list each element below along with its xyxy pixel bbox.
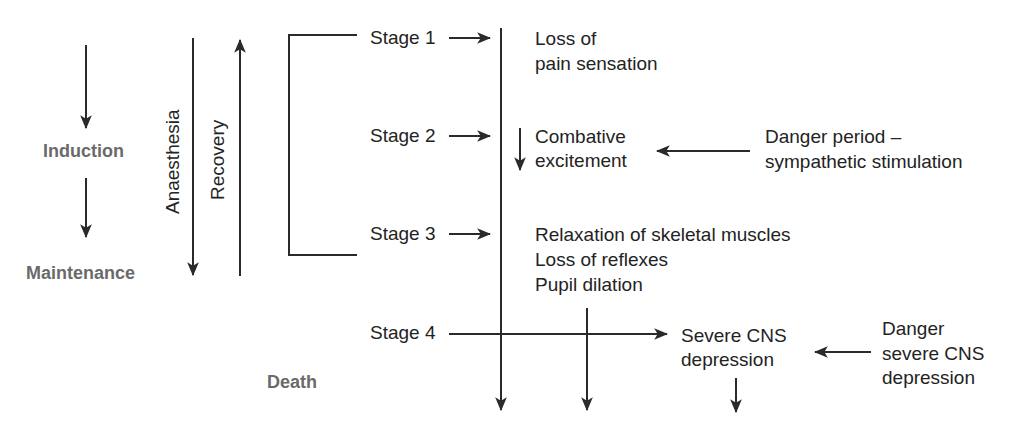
danger-severe-text: Danger — [882, 317, 944, 340]
stage-4-label: Stage 4 — [370, 321, 436, 344]
stage-4-effect: Severe CNS — [681, 324, 787, 347]
diagram-arrows — [0, 0, 1023, 446]
stage-3-effect: Relaxation of skeletal muscles — [535, 223, 791, 246]
stage-3-effect: Pupil dilation — [535, 273, 643, 296]
stage-3-effect: Loss of reflexes — [535, 248, 668, 271]
stage-1-effect: Loss of — [535, 27, 596, 50]
danger-period-text: Danger period – — [765, 125, 901, 148]
danger-period-text: sympathetic stimulation — [765, 150, 962, 173]
recovery-label: Recovery — [207, 120, 229, 200]
stage-1-label: Stage 1 — [370, 26, 436, 49]
phase-maintenance: Maintenance — [26, 263, 135, 284]
stage-4-effect: depression — [681, 348, 774, 371]
stage-2-effect: excitement — [535, 149, 627, 172]
phase-induction: Induction — [43, 141, 124, 162]
anaesthesia-label: Anaesthesia — [162, 109, 184, 214]
stage-2-effect: Combative — [535, 125, 626, 148]
stage-1-effect: pain sensation — [535, 52, 658, 75]
stage-3-label: Stage 3 — [370, 222, 436, 245]
bracket — [289, 35, 357, 255]
danger-severe-text: severe CNS — [882, 342, 984, 365]
phase-death: Death — [267, 372, 317, 393]
stage-2-label: Stage 2 — [370, 124, 436, 147]
danger-severe-text: depression — [882, 366, 975, 389]
